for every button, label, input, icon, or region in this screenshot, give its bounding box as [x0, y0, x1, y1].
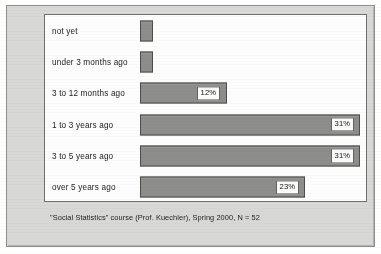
- bar-row: 3 to 5 years ago 31%: [45, 140, 366, 171]
- category-label: under 3 months ago: [52, 57, 128, 66]
- category-label: 3 to 5 years ago: [52, 151, 113, 160]
- bar-value-label: 12%: [197, 86, 220, 100]
- category-label: not yet: [52, 26, 78, 35]
- bar-value-label: 31%: [331, 149, 354, 163]
- bar-track: 12%: [140, 83, 362, 104]
- bar-track: [140, 20, 362, 41]
- bar-track: 31%: [140, 114, 362, 135]
- chart-caption: "Social Statistics" course (Prof. Kuechl…: [50, 213, 260, 222]
- bar-value-label: 31%: [331, 117, 354, 131]
- bar-rows: not yet under 3 months ago 3 to 12 month…: [45, 15, 366, 201]
- bar-row: over 5 years ago 23%: [45, 172, 366, 203]
- bar-value-label: 23%: [276, 180, 299, 194]
- bar-row: 3 to 12 months ago 12%: [45, 78, 366, 109]
- bar-track: [140, 51, 362, 72]
- bar-row: 1 to 3 years ago 31%: [45, 109, 366, 140]
- bar: [140, 51, 153, 72]
- bar-track: 31%: [140, 145, 362, 166]
- bar-row: under 3 months ago: [45, 46, 366, 77]
- category-label: 3 to 12 months ago: [52, 89, 125, 98]
- chart-figure: not yet under 3 months ago 3 to 12 month…: [0, 0, 381, 254]
- bar: [140, 114, 360, 135]
- bar: [140, 20, 153, 41]
- category-label: over 5 years ago: [52, 183, 116, 192]
- bar-row: not yet: [45, 15, 366, 46]
- bar: [140, 145, 360, 166]
- bar-track: 23%: [140, 177, 362, 198]
- category-label: 1 to 3 years ago: [52, 120, 113, 129]
- plot-area: not yet under 3 months ago 3 to 12 month…: [44, 14, 367, 202]
